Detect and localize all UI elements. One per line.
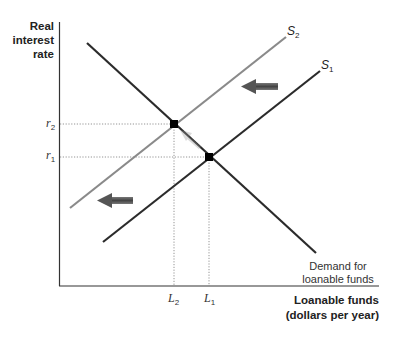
s2-label: S2: [287, 24, 299, 40]
equilibrium-point-1: [205, 153, 213, 161]
r2-sub: 2: [51, 123, 55, 132]
x-tick-l1: L1: [204, 291, 215, 307]
x-tick-l2: L2: [168, 291, 179, 307]
shift-left-arrow-icon: [241, 79, 278, 94]
demand-curve-label: Demand for loanable funds: [293, 260, 383, 286]
l2-base: L: [168, 291, 175, 305]
l1-sub: 1: [211, 298, 215, 307]
guide-lines: [60, 124, 209, 286]
s1-label-base: S: [321, 58, 329, 72]
s2-label-sub: 2: [295, 31, 299, 40]
movement-arrow-icon: [180, 130, 200, 148]
x-axis-label-line: (dollars per year): [286, 308, 379, 323]
demand-label-line: Demand for: [293, 260, 383, 273]
y-axis-label: Real interest rate: [4, 19, 54, 61]
y-tick-r1: r1: [46, 148, 55, 164]
y-axis-label-line: Real: [4, 19, 54, 33]
y-axis-label-line: rate: [4, 47, 54, 61]
l2-sub: 2: [175, 298, 179, 307]
s2-label-base: S: [287, 24, 295, 38]
x-axis-label: Loanable funds (dollars per year): [286, 293, 379, 323]
r1-sub: 1: [51, 155, 55, 164]
chart-canvas: [0, 0, 401, 337]
s1-label-sub: 1: [329, 65, 333, 74]
shift-left-arrow-icon: [97, 193, 133, 208]
demand-curve: [87, 43, 316, 253]
equilibrium-point-2: [170, 120, 178, 128]
y-tick-r2: r2: [46, 116, 55, 132]
s1-label: S1: [321, 58, 333, 74]
x-axis-label-line: Loanable funds: [286, 293, 379, 308]
demand-label-line: loanable funds: [293, 273, 383, 286]
l1-base: L: [204, 291, 211, 305]
y-axis-label-line: interest: [4, 33, 54, 47]
